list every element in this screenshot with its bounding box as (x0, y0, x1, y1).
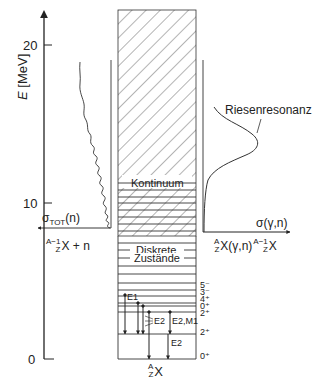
gamma-transitions (124, 294, 171, 359)
continuum-region (118, 10, 196, 236)
right-reaction-mid: X(γ,n) (220, 240, 252, 252)
energy-symbol: E (15, 91, 30, 100)
tick-label-10: 10 (23, 197, 37, 210)
energy-axis-label: E [MeV] (16, 54, 29, 100)
spin-0-plus-ground: 0⁺ (200, 352, 210, 361)
energy-unit: [MeV] (15, 54, 30, 88)
left-reaction-text: X + n (61, 240, 89, 252)
transition-e2m1-label: E2,M1 (172, 317, 198, 326)
right-atomic-number: Z (214, 246, 219, 254)
tick-label-20: 20 (23, 39, 37, 52)
spin-2-plus-first: 2⁺ (200, 328, 210, 337)
product-symbol: X (269, 240, 277, 252)
sigma-argument: (n) (65, 211, 80, 225)
right-reaction-label: AZ X(γ,n) A−1Z X (214, 238, 277, 254)
sigma-gamma-n-label: σ(γ,n) (256, 217, 287, 229)
discrete-label-line2: Zustände (132, 253, 182, 264)
photoneutron-cross-section-curve (203, 60, 290, 232)
atomic-number: Z (148, 371, 153, 379)
continuum-label: Kontinuum (131, 178, 184, 189)
sigma-tot-label: σTOT(n) (42, 212, 80, 224)
transition-e2-ground-label: E2 (171, 339, 182, 348)
product-atomic-number: Z (253, 246, 267, 254)
spin-2-plus-upper: 2⁺ (200, 309, 210, 318)
nuclear-level-diagram (0, 0, 324, 386)
element-symbol: X (154, 365, 163, 378)
left-atomic-number: Z (46, 246, 60, 254)
energy-axis (44, 14, 54, 359)
resonance-label: Riesenresonanz (225, 104, 312, 116)
transition-e1-label: E1 (127, 293, 138, 302)
sigma-subscript: TOT (49, 218, 65, 227)
transition-e2-label: E2 (154, 317, 165, 326)
tick-label-0: 0 (28, 353, 35, 366)
left-reaction-label: A−1Z X + n (46, 238, 90, 254)
nucleus-label: AZ X (148, 363, 163, 379)
